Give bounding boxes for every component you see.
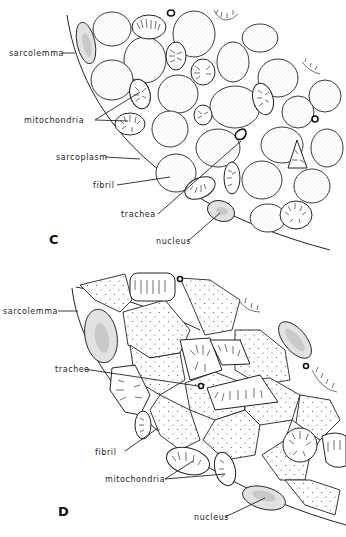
panel-label-d: D [58, 504, 69, 519]
label-nucleus-d: nucleus [194, 513, 229, 522]
label-fibril-d: fibril [95, 448, 116, 457]
muscle-cross-section-diagram: sarcolemma mitochondria sarcoplasm fibri… [0, 0, 346, 537]
label-trachea-c: trachea [121, 210, 156, 219]
panel-c: sarcolemma mitochondria sarcoplasm fibri… [9, 10, 343, 250]
label-sarcoplasm-c: sarcoplasm [56, 153, 108, 162]
panel-d: sarcolemma trachea fibril mitochondria n… [3, 273, 346, 525]
label-nucleus-c: nucleus [156, 237, 191, 246]
label-trachea-d: trachea [55, 365, 90, 374]
panel-label-c: C [49, 232, 59, 247]
label-sarcolemma-c: sarcolemma [9, 49, 64, 58]
mito-fragment-c [214, 10, 238, 20]
label-sarcolemma-d: sarcolemma [3, 307, 58, 316]
nucleus-c [204, 197, 237, 225]
label-mitochondria-d: mitochondria [105, 475, 165, 484]
nucleus-d-left [81, 307, 122, 366]
label-mitochondria-c: mitochondria [24, 116, 84, 125]
label-fibril-c: fibril [93, 181, 114, 190]
